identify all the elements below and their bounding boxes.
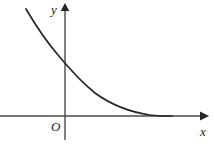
y-axis-arrow-icon — [61, 3, 70, 11]
x-axis-label: x — [199, 124, 206, 139]
exponential-decay-curve — [26, 9, 172, 116]
x-axis-arrow-icon — [200, 112, 209, 121]
graph-svg: y x O — [0, 0, 215, 146]
origin-label: O — [51, 119, 61, 134]
y-axis-label: y — [49, 2, 57, 17]
figure-container: y x O — [0, 0, 215, 146]
